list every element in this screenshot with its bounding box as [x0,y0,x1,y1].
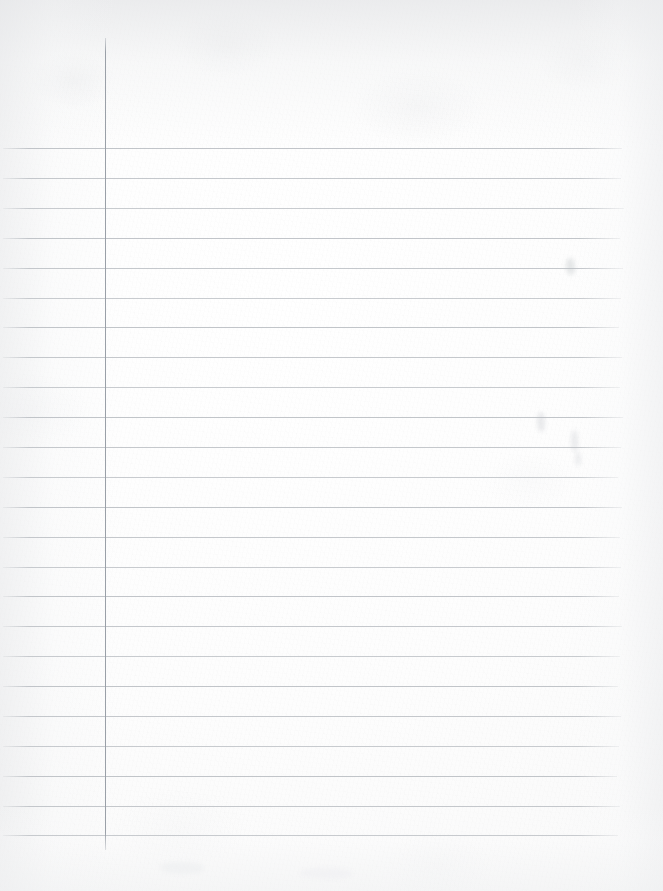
paper-background [0,0,663,891]
scanned-paper-page [0,0,663,891]
